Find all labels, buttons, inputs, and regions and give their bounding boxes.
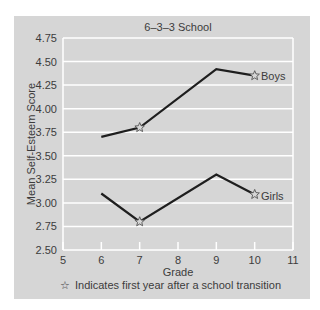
svg-text:3.50: 3.50: [36, 150, 57, 162]
x-ticks: [63, 242, 293, 250]
svg-text:4.25: 4.25: [36, 79, 57, 91]
svg-text:3.75: 3.75: [36, 126, 57, 138]
y-tick-labels: 2.502.753.003.253.503.754.004.254.504.75: [36, 32, 57, 256]
svg-text:6: 6: [98, 254, 104, 266]
star-icon: ☆: [60, 279, 70, 291]
svg-text:8: 8: [175, 254, 181, 266]
line-chart: 2.502.753.003.253.503.754.004.254.504.75…: [0, 0, 320, 310]
svg-text:2.75: 2.75: [36, 220, 57, 232]
svg-text:7: 7: [137, 254, 143, 266]
chart-title: 6–3–3 School: [144, 21, 211, 33]
footnote: ☆ Indicates first year after a school tr…: [60, 279, 281, 291]
x-axis-label: Grade: [163, 266, 194, 278]
svg-text:10: 10: [249, 254, 261, 266]
boys-label: Boys: [261, 70, 286, 82]
svg-text:3.25: 3.25: [36, 173, 57, 185]
grid-lines: [63, 38, 293, 250]
svg-text:11: 11: [287, 254, 298, 266]
x-tick-labels: 567891011: [60, 254, 299, 266]
svg-text:4.75: 4.75: [36, 32, 57, 44]
svg-text:9: 9: [213, 254, 219, 266]
svg-text:2.50: 2.50: [36, 244, 57, 256]
girls-label: Girls: [261, 190, 284, 202]
svg-text:5: 5: [60, 254, 66, 266]
svg-text:4.00: 4.00: [36, 103, 57, 115]
footnote-text: Indicates first year after a school tran…: [75, 279, 281, 291]
svg-text:4.50: 4.50: [36, 56, 57, 68]
svg-text:3.00: 3.00: [36, 197, 57, 209]
y-axis-label: Mean Self-Esteem Score: [25, 83, 37, 205]
